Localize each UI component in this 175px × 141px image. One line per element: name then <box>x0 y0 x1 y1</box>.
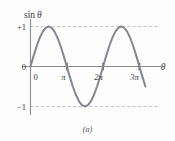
y-axis-label-variable: θ <box>37 10 42 20</box>
y-axis-label-function: sin <box>24 10 35 20</box>
figure-container: sinθ θ +1 0 −1 0 π 2π 3π (a) <box>0 0 175 141</box>
y-tick-label-zero: 0 <box>22 62 26 72</box>
x-tick-label-2pi: 2π <box>94 72 103 82</box>
y-tick-label-minus-one: −1 <box>17 102 26 112</box>
sine-wave-chart: sinθ θ +1 0 −1 0 π 2π 3π (a) <box>0 0 175 141</box>
x-axis-label: θ <box>161 62 166 72</box>
y-axis-label: sinθ <box>24 10 42 20</box>
x-tick-label-3pi: 3π <box>129 72 139 82</box>
x-tick-label-zero: 0 <box>33 72 37 82</box>
x-tick-label-pi: π <box>61 72 66 82</box>
figure-caption: (a) <box>83 125 93 134</box>
y-tick-label-plus-one: +1 <box>17 22 26 32</box>
